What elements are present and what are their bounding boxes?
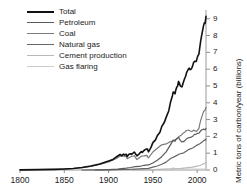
legend-label-natural-gas: Natural gas <box>59 40 100 49</box>
legend-label-total: Total <box>59 7 76 16</box>
y-tick-label-5: 5 <box>213 81 225 90</box>
legend-item-gas-flaring: Gas flaring <box>27 61 162 72</box>
y-tick-label-4: 4 <box>213 98 225 107</box>
legend-item-coal: Coal <box>27 28 162 39</box>
x-tick-label-1900: 1900 <box>92 175 126 185</box>
legend-label-petroleum: Petroleum <box>59 18 95 27</box>
emissions-chart: Total Petroleum Coal Natural gas Cement … <box>0 0 247 190</box>
legend-item-cement-production: Cement production <box>27 50 162 61</box>
y-tick-label-7: 7 <box>213 47 225 56</box>
legend-swatch-gas-flaring <box>27 66 54 67</box>
y-tick-label-2: 2 <box>213 131 225 140</box>
legend-label-coal: Coal <box>59 29 75 38</box>
legend-item-total: Total <box>27 6 162 17</box>
legend-swatch-cement-production <box>27 55 54 56</box>
chart-legend: Total Petroleum Coal Natural gas Cement … <box>27 6 162 72</box>
legend-swatch-petroleum <box>27 22 54 23</box>
y-tick-label-3: 3 <box>213 115 225 124</box>
legend-swatch-natural-gas <box>27 44 54 45</box>
legend-swatch-total <box>27 11 54 13</box>
y-tick-label-8: 8 <box>213 31 225 40</box>
legend-label-gas-flaring: Gas flaring <box>59 62 98 71</box>
legend-label-cement-production: Cement production <box>59 51 127 60</box>
legend-swatch-coal <box>27 33 54 34</box>
y-axis-title: Metric tons of carbon/year (billions) <box>234 59 243 184</box>
y-tick-label-9: 9 <box>213 14 225 23</box>
y-tick-label-1: 1 <box>213 148 225 157</box>
legend-item-petroleum: Petroleum <box>27 17 162 28</box>
y-tick-label-0: 0 <box>213 165 225 174</box>
x-tick-label-1850: 1850 <box>47 175 81 185</box>
legend-item-natural-gas: Natural gas <box>27 39 162 50</box>
y-tick-label-6: 6 <box>213 64 225 73</box>
x-tick-label-1800: 1800 <box>3 175 37 185</box>
x-tick-label-2000: 2000 <box>180 175 214 185</box>
x-tick-label-1950: 1950 <box>136 175 170 185</box>
